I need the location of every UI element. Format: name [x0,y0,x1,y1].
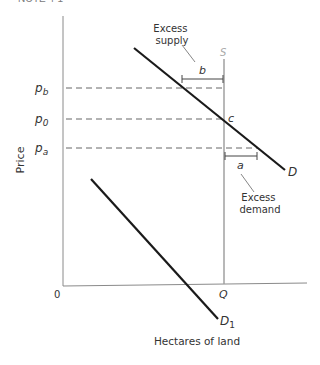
pa-sub: a [43,147,49,157]
pb-sub: b [43,87,49,97]
demand-curve-d1 [91,179,218,319]
excess-demand-line1: Excess [241,192,275,203]
d1-main: D [220,314,229,328]
b-label: b [199,64,206,77]
excess-demand-leader [241,174,254,192]
supply-demand-diagram: Price pb p0 pa 0 Q S D D1 c b a Excess s… [0,0,320,365]
p0-label: p0 [34,112,49,128]
equilibrium-c-label: c [228,112,234,125]
demand-curve-d [134,48,285,170]
d1-label: D1 [220,314,235,330]
excess-supply-line2: supply [156,35,189,46]
s-label: S [220,47,227,58]
d-label: D [288,165,297,179]
pb-label: pb [34,81,49,97]
excess-supply-line1: Excess [153,23,187,34]
a-label: a [237,159,244,172]
excess-supply-leader [182,45,195,62]
excess-demand-line2: demand [239,204,280,215]
q-label: Q [219,288,228,301]
excess-supply-label: Excess supply [153,23,190,46]
d1-sub: 1 [229,320,235,330]
p0-sub: 0 [43,118,49,128]
pa-label: pa [34,141,48,157]
y-axis-title: Price [14,146,27,173]
excess-demand-label: Excess demand [239,192,280,215]
x-axis-title: Hectares of land [154,335,240,347]
origin-label: 0 [54,289,60,300]
